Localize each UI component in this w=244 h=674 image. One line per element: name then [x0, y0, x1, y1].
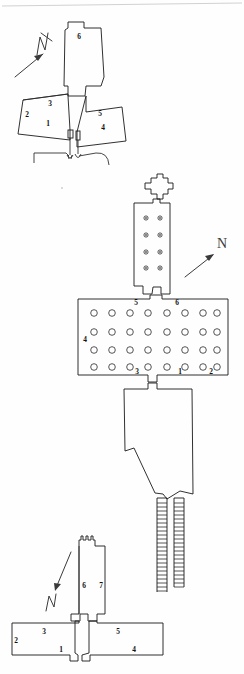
lower-room-label-1: 1	[59, 645, 63, 654]
lower-central-chamber-outline	[71, 536, 105, 621]
lower-room-label-4: 4	[132, 645, 136, 654]
middle-plan: 5 6 4 3 1 2 N	[78, 174, 228, 382]
middle-room-label-5: 5	[134, 298, 138, 307]
upper-left-pivot-tick-b	[71, 155, 72, 159]
floor-plan-page: 6 3 2 1 5 4	[0, 0, 244, 674]
lower-plan: 6 7 3 2 1 5 4	[12, 536, 163, 661]
north-arrow-icon-top	[15, 33, 52, 77]
upper-right-wing-outline	[77, 96, 126, 147]
upper-room-label-6: 6	[77, 32, 81, 41]
lower-room-label-2: 2	[14, 636, 18, 645]
middle-room-label-4: 4	[83, 335, 87, 344]
scan-artifact-rule	[2, 3, 242, 6]
lower-right-wing-outline	[82, 621, 163, 661]
upper-room-label-1: 1	[46, 119, 50, 128]
lower-room-label-6: 6	[82, 581, 86, 590]
north-letter-middle: N	[217, 236, 227, 251]
middle-cruciform-head	[145, 174, 173, 199]
upper-right-causeway	[79, 153, 109, 165]
middle-hall-pillars	[91, 310, 221, 371]
lower-room-label-5: 5	[116, 627, 120, 636]
middle-room-label-2: 2	[209, 367, 213, 376]
forecourt-outline	[124, 383, 193, 499]
north-arrow-icon-middle: N	[185, 236, 227, 277]
middle-antechamber-outline	[134, 199, 170, 294]
ramp-right	[174, 498, 184, 587]
upper-room-label-3: 3	[48, 99, 52, 108]
ramp-left	[157, 498, 167, 592]
middle-plan-forecourt	[124, 383, 193, 592]
upper-left-door-jamb	[68, 130, 73, 138]
middle-room-label-6: 6	[175, 298, 179, 307]
middle-room-label-1: 1	[178, 367, 182, 376]
upper-room-label-2: 2	[25, 110, 29, 119]
lower-room-label-3: 3	[42, 627, 46, 636]
middle-room-label-3: 3	[135, 367, 139, 376]
scan-speck	[61, 187, 63, 189]
upper-left-wing-inner-step	[23, 94, 68, 100]
lower-room-label-7: 7	[99, 581, 103, 590]
floor-plan-drawing: 6 3 2 1 5 4	[0, 0, 244, 674]
north-arrow-icon-bottom	[46, 552, 71, 611]
upper-left-causeway	[34, 153, 69, 163]
upper-plan: 6 3 2 1 5 4	[15, 22, 126, 165]
upper-room-label-4: 4	[101, 123, 105, 132]
upper-room-6-outline	[64, 22, 104, 96]
middle-antechamber-pillars	[144, 216, 162, 270]
upper-room-label-5: 5	[98, 109, 102, 118]
